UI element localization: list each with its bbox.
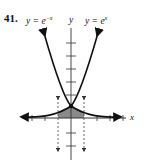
curve-e-x — [24, 33, 98, 117]
graph — [0, 0, 156, 167]
curve-e-neg-x — [44, 33, 118, 117]
intersection-point — [69, 104, 73, 108]
